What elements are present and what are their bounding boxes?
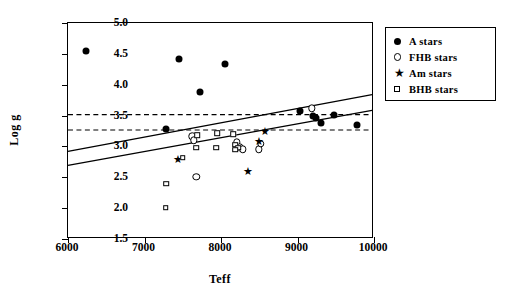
- x-tick-label: 6000: [56, 241, 79, 253]
- y-tick-label: 2.5: [114, 170, 128, 182]
- y-tick: [62, 116, 68, 117]
- open-square-marker: [214, 130, 220, 136]
- x-tick-label: 8000: [209, 241, 232, 253]
- x-tick-label: 10000: [359, 241, 388, 253]
- y-tick-label: 1.5: [114, 232, 128, 244]
- open-square-marker: [233, 147, 239, 153]
- y-tick-label: 3.5: [114, 109, 128, 121]
- y-tick: [62, 208, 68, 209]
- x-axis-title: Teff: [209, 272, 231, 287]
- y-tick: [62, 146, 68, 147]
- y-tick: [62, 85, 68, 86]
- filled-circle-marker: [297, 108, 304, 115]
- legend-symbol: [394, 53, 409, 60]
- star-marker: ★: [243, 169, 253, 174]
- x-tick-label: 9000: [285, 241, 308, 253]
- y-tick: [62, 54, 68, 55]
- open-square-marker: [213, 145, 219, 151]
- y-tick-label: 5.0: [114, 16, 128, 28]
- filled-circle-marker: [221, 60, 228, 67]
- legend-entry-fhb-stars[interactable]: FHB stars: [394, 49, 495, 65]
- legend-star-icon: ★: [394, 69, 405, 77]
- open-square-marker: [193, 145, 199, 151]
- open-square-marker: [180, 155, 186, 161]
- y-tick-label: 3.0: [114, 139, 128, 151]
- legend-label: A stars: [409, 36, 442, 47]
- y-tick: [62, 177, 68, 178]
- chart-legend: A starsFHB stars★Am starsBHB stars: [385, 27, 496, 101]
- x-tick-label: 7000: [132, 241, 155, 253]
- star-marker: ★: [260, 128, 270, 133]
- legend-open-square-icon: [394, 86, 400, 92]
- legend-entry-am-stars[interactable]: ★Am stars: [394, 65, 495, 81]
- legend-entry-bhb-stars[interactable]: BHB stars: [394, 81, 495, 97]
- y-tick-label: 4.0: [114, 78, 128, 90]
- filled-circle-marker: [83, 48, 90, 55]
- legend-entry-a-stars[interactable]: A stars: [394, 33, 495, 49]
- legend-symbol: ★: [394, 69, 409, 77]
- legend-symbol: [394, 86, 409, 92]
- y-tick-label: 2.0: [114, 201, 128, 213]
- filled-circle-marker: [330, 111, 337, 118]
- legend-filled-circle-icon: [394, 38, 401, 45]
- open-square-marker: [164, 181, 170, 187]
- open-square-marker: [230, 132, 236, 138]
- legend-label: Am stars: [409, 68, 452, 79]
- filled-circle-marker: [353, 122, 360, 129]
- filled-circle-marker: [197, 88, 204, 95]
- open-square-marker: [194, 132, 200, 138]
- filled-circle-marker: [175, 56, 182, 63]
- filled-circle-marker: [317, 119, 324, 126]
- y-axis-title: Log g: [7, 114, 22, 146]
- filled-circle-marker: [163, 126, 170, 133]
- legend-symbol: [394, 38, 409, 45]
- y-tick: [62, 23, 68, 24]
- star-marker: ★: [254, 139, 264, 144]
- legend-open-circle-icon: [394, 53, 401, 60]
- legend-label: BHB stars: [409, 84, 458, 95]
- y-tick-label: 4.5: [114, 47, 128, 59]
- chart-figure: Log g Teff 1.52.02.53.03.54.04.55.060007…: [0, 0, 507, 295]
- open-square-marker: [163, 205, 169, 211]
- legend-label: FHB stars: [409, 52, 458, 63]
